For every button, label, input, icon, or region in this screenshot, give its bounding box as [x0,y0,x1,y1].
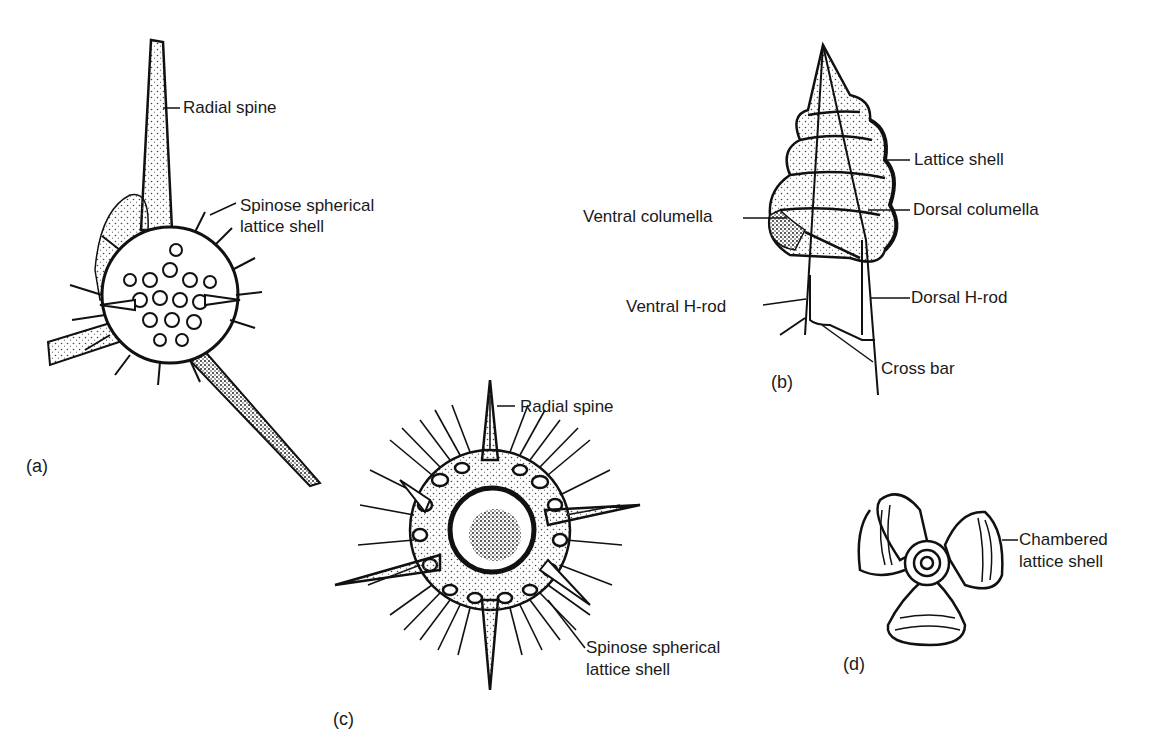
panel-label-d: (d) [843,654,865,675]
figure-d-chambered-shell [859,494,1018,645]
label-d-chambered-shell-line2: lattice shell [1019,552,1103,572]
label-c-spinose-shell-line1: Spinose spherical [586,638,720,658]
label-c-radial-spine: Radial spine [520,397,614,417]
label-b-cross-bar: Cross bar [881,359,955,379]
panel-label-a: (a) [26,456,48,477]
label-d-chambered-shell-line1: Chambered [1019,530,1108,550]
label-a-spinose-shell-line2: lattice shell [240,217,324,237]
label-b-dorsal-h-rod: Dorsal H-rod [911,288,1007,308]
label-c-spinose-shell-line2: lattice shell [586,660,670,680]
figure-b-nassellarian [743,45,910,395]
diagram-artwork [0,0,1151,752]
panel-label-b: (b) [771,372,793,393]
label-a-spinose-shell-line1: Spinose spherical [240,196,374,216]
label-b-ventral-columella: Ventral columella [583,207,712,227]
label-b-dorsal-columella: Dorsal columella [913,200,1039,220]
label-a-radial-spine: Radial spine [183,98,277,118]
label-b-lattice-shell: Lattice shell [914,150,1004,170]
panel-label-c: (c) [333,709,354,730]
label-b-ventral-h-rod: Ventral H-rod [626,297,726,317]
